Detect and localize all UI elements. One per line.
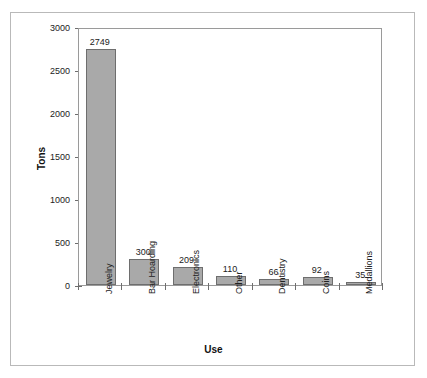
y-tick-label: 500 xyxy=(28,238,70,248)
bar-value-label: 92 xyxy=(295,265,339,275)
x-tick-mark xyxy=(208,283,209,290)
bar-value-label: 2749 xyxy=(78,37,122,47)
bar-value-label: 209 xyxy=(165,255,209,265)
x-axis-title: Use xyxy=(0,344,427,355)
x-tick-mark xyxy=(165,283,166,290)
bar-value-label: 300 xyxy=(121,247,165,257)
x-category-label: Jewelry xyxy=(104,263,114,294)
bar-value-label: 66 xyxy=(251,267,295,277)
chart-figure: 050010001500200025003000 Tons JewelryBar… xyxy=(0,0,427,378)
x-category-label: Other xyxy=(234,271,244,294)
y-tick-label: 1500 xyxy=(28,152,70,162)
y-tick-label: 0 xyxy=(28,281,70,291)
x-tick-mark xyxy=(295,283,296,290)
x-tick-mark xyxy=(339,283,340,290)
y-tick-label: 2500 xyxy=(28,66,70,76)
y-tick-label: 1000 xyxy=(28,195,70,205)
x-tick-mark xyxy=(252,283,253,290)
y-axis-title: Tons xyxy=(36,147,47,170)
y-tick-label: 3000 xyxy=(28,23,70,33)
x-tick-mark xyxy=(121,283,122,290)
x-tick-mark xyxy=(382,283,383,290)
y-tick-label: 2000 xyxy=(28,109,70,119)
x-tick-mark xyxy=(78,283,79,290)
bar xyxy=(86,49,116,285)
bar-value-label: 35 xyxy=(338,270,382,280)
bar-value-label: 110 xyxy=(208,264,252,274)
